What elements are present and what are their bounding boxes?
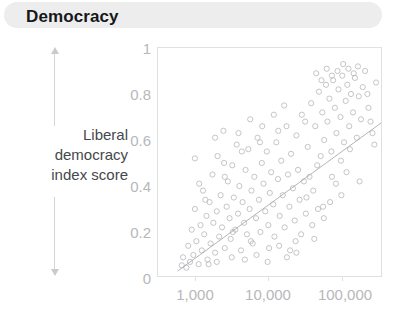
- scatter-point: [221, 160, 226, 165]
- scatter-point: [244, 232, 249, 237]
- scatter-point: [336, 87, 341, 92]
- scatter-point: [334, 131, 339, 136]
- scatter-point: [243, 167, 248, 172]
- scatter-point: [368, 119, 373, 124]
- scatter-point: [341, 140, 346, 145]
- scatter-point: [235, 211, 240, 216]
- scatter-point: [338, 158, 343, 163]
- scatter-point: [325, 119, 330, 124]
- scatter-point: [312, 236, 317, 241]
- scatter-point: [355, 64, 360, 69]
- scatter-point: [324, 66, 329, 71]
- scatter-point: [198, 223, 203, 228]
- scatter-point: [309, 101, 314, 106]
- scatter-point: [219, 225, 224, 230]
- scatter-point: [259, 160, 264, 165]
- y-tick-label-0.4: 0.4: [105, 179, 151, 194]
- scatter-point: [225, 179, 230, 184]
- scatter-point: [315, 206, 320, 211]
- scatter-point: [363, 68, 368, 73]
- scatter-point: [269, 170, 274, 175]
- scatter-point: [348, 91, 353, 96]
- scatter-point: [287, 248, 292, 253]
- scatter-point: [285, 172, 290, 177]
- scatter-point: [316, 89, 321, 94]
- scatter-point: [303, 211, 308, 216]
- arrow-down-icon: [51, 269, 59, 276]
- scatter-point: [279, 158, 284, 163]
- scatter-point: [358, 117, 363, 122]
- scatter-point: [338, 114, 343, 119]
- scatter-point: [299, 232, 304, 237]
- scatter-point: [329, 174, 334, 179]
- arrow-up-icon: [51, 47, 59, 54]
- scatter-point: [347, 124, 352, 129]
- scatter-point: [192, 156, 197, 161]
- scatter-point: [370, 131, 375, 136]
- scatter-point: [276, 128, 281, 133]
- scatter-point: [238, 248, 243, 253]
- scatter-point: [315, 163, 320, 168]
- scatter-point: [215, 154, 220, 159]
- scatter-point: [333, 181, 338, 186]
- scatter-point: [258, 229, 263, 234]
- scatter-point: [284, 124, 289, 129]
- scatter-point: [197, 181, 202, 186]
- scatter-point: [274, 140, 279, 145]
- y-tick-label-0: 0: [105, 271, 151, 286]
- scatter-point: [265, 259, 270, 264]
- plot-area: [157, 47, 382, 277]
- scatter-point: [303, 119, 308, 124]
- scatter-point: [252, 174, 257, 179]
- scatter-point: [234, 142, 239, 147]
- scatter-point: [357, 179, 362, 184]
- scatter-point: [297, 197, 302, 202]
- scatter-point: [218, 193, 223, 198]
- x-tick-label-100000: 100,000: [318, 287, 372, 302]
- scatter-point: [327, 200, 332, 205]
- scatter-point: [304, 195, 309, 200]
- scatter-point: [266, 246, 271, 251]
- arrow-stem-bottom: [54, 197, 55, 269]
- scatter-point: [282, 225, 287, 230]
- scatter-point: [340, 73, 345, 78]
- x-tick-label-1000: 1,000: [176, 287, 214, 302]
- scatter-svg: [158, 48, 382, 277]
- y-tick-label-0.8: 0.8: [105, 87, 151, 102]
- scatter-point: [360, 85, 365, 90]
- scatter-point: [231, 195, 236, 200]
- scatter-point: [322, 137, 327, 142]
- scatter-point: [293, 239, 298, 244]
- scatter-point: [288, 151, 293, 156]
- scatter-point: [343, 98, 348, 103]
- scatter-point: [202, 232, 207, 237]
- scatter-point: [249, 188, 254, 193]
- scatter-point: [277, 243, 282, 248]
- y-axis-label-line-2: democracy: [0, 145, 128, 165]
- scatter-point: [299, 112, 304, 117]
- y-tick-label-1: 1: [105, 41, 151, 56]
- scatter-point: [256, 197, 261, 202]
- title-banner: Democracy: [4, 2, 382, 28]
- scatter-point: [263, 209, 268, 214]
- scatter-point: [282, 103, 287, 108]
- scatter-point: [345, 82, 350, 87]
- scatter-point: [271, 112, 276, 117]
- scatter-point: [236, 131, 241, 136]
- scatter-point: [189, 227, 194, 232]
- scatter-point: [335, 68, 340, 73]
- scatter-point: [329, 149, 334, 154]
- scatter-point: [261, 181, 266, 186]
- scatter-point: [310, 223, 315, 228]
- scatter-point: [373, 80, 378, 85]
- scatter-point: [287, 204, 292, 209]
- scatter-point: [260, 124, 265, 129]
- scatter-point: [314, 71, 319, 76]
- scatter-point: [292, 218, 297, 223]
- scatter-point: [294, 250, 299, 255]
- scatter-point: [239, 149, 244, 154]
- scatter-point: [356, 94, 361, 99]
- y-tick-label-0.2: 0.2: [105, 225, 151, 240]
- scatter-point: [351, 71, 356, 76]
- page-title: Democracy: [26, 7, 119, 27]
